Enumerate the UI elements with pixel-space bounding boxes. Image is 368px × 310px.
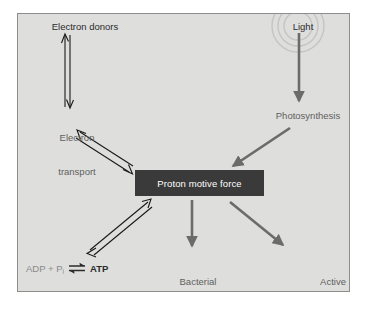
edge-pmf-atp: [87, 199, 152, 257]
node-atp-reaction: ADP + Pi ATP: [26, 258, 156, 278]
node-light: Light: [268, 21, 338, 32]
node-electron-donors: Electron donors: [30, 21, 140, 32]
edge-pmf-active-transport: [230, 202, 283, 245]
node-electron-transport-line1: Electron: [36, 132, 118, 143]
node-bacterial-flagella-rotation: Bacterial flagella rotation: [158, 254, 238, 292]
node-electron-transport: Electron transport: [36, 110, 118, 200]
atp-reaction-reactants: ADP + Pi: [26, 263, 64, 274]
node-proton-motive-force-label: Proton motive force: [157, 178, 241, 189]
node-electron-transport-line2: transport: [36, 166, 118, 177]
node-photosynthesis: Photosynthesis: [260, 110, 350, 121]
equilibrium-arrow-icon: [67, 261, 87, 275]
node-active-transport: Active transport: [294, 254, 350, 292]
node-active-transport-line1: Active: [294, 276, 350, 287]
atp-reaction-products: ATP: [90, 263, 108, 274]
diagram-panel: Electron donors Light Electron transport…: [17, 13, 350, 292]
node-proton-motive-force: Proton motive force: [135, 170, 264, 196]
figure-container: Electron donors Light Electron transport…: [0, 0, 368, 310]
node-bacterial-flagella-rotation-line1: Bacterial: [158, 276, 238, 287]
atp-reaction-reactants-subscript: i: [63, 268, 64, 275]
atp-reaction-reactants-text: ADP + P: [26, 263, 63, 274]
edge-photosynthesis-pmf: [233, 128, 290, 166]
edge-donors-electron-transport: [62, 34, 74, 108]
